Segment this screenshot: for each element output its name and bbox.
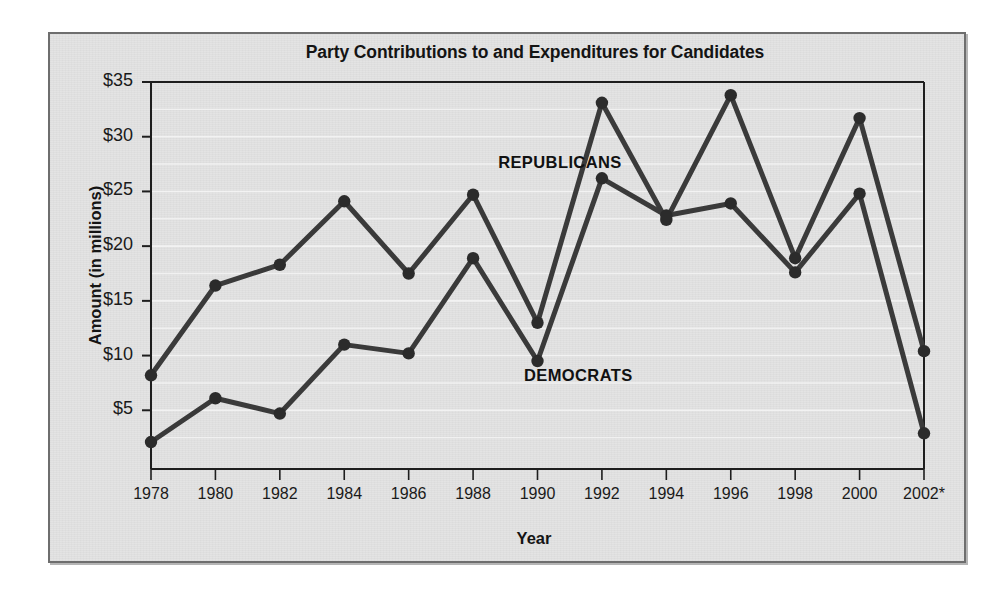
x-tick-label: 1992 — [567, 485, 637, 503]
data-point — [274, 259, 286, 271]
x-tick-label: 1996 — [696, 485, 766, 503]
x-tick-label: 1984 — [309, 485, 379, 503]
series-line-democrats — [151, 178, 924, 442]
x-tick-label: 1982 — [245, 485, 315, 503]
data-point — [918, 427, 930, 439]
data-point — [789, 252, 801, 264]
y-tick-label: $20 — [71, 234, 133, 255]
data-point — [209, 279, 221, 291]
data-point — [789, 266, 801, 278]
data-point — [402, 267, 414, 279]
data-point — [338, 338, 350, 350]
data-point — [145, 369, 157, 381]
data-point — [853, 112, 865, 124]
data-point — [338, 195, 350, 207]
y-tick-label: $30 — [71, 125, 133, 146]
data-point — [725, 197, 737, 209]
data-point — [467, 189, 479, 201]
x-tick-label: 1990 — [503, 485, 573, 503]
data-point — [531, 317, 543, 329]
chart-page: Party Contributions to and Expenditures … — [0, 0, 1007, 592]
data-point — [918, 345, 930, 357]
x-tick-label: 1988 — [438, 485, 508, 503]
series-annotation-republicans: REPUBLICANS — [498, 153, 622, 172]
x-tick-label: 1978 — [116, 485, 186, 503]
data-point — [596, 172, 608, 184]
y-tick-label: $25 — [71, 179, 133, 200]
data-point — [660, 209, 672, 221]
x-tick-label: 2002* — [889, 485, 959, 503]
x-tick-label: 2000 — [825, 485, 895, 503]
x-tick-label: 1986 — [374, 485, 444, 503]
data-point — [145, 436, 157, 448]
data-point — [274, 407, 286, 419]
figure-frame: Party Contributions to and Expenditures … — [48, 32, 966, 563]
data-point — [209, 392, 221, 404]
data-point — [725, 89, 737, 101]
x-tick-label: 1994 — [631, 485, 701, 503]
y-tick-label: $5 — [71, 398, 133, 419]
data-point — [402, 347, 414, 359]
y-tick-label: $35 — [71, 70, 133, 91]
y-tick-label: $15 — [71, 289, 133, 310]
data-point — [853, 187, 865, 199]
data-point — [467, 252, 479, 264]
y-tick-label: $10 — [71, 344, 133, 365]
data-point — [596, 97, 608, 109]
series-annotation-democrats: DEMOCRATS — [524, 366, 633, 385]
x-tick-label: 1998 — [760, 485, 830, 503]
x-tick-label: 1980 — [180, 485, 250, 503]
